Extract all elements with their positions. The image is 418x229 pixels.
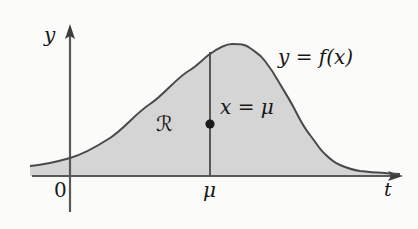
centroid-dot-marker: [205, 119, 214, 128]
mean-tick-label: μ: [203, 180, 216, 200]
mean-line-label: x = μ: [220, 97, 274, 117]
curve-equation-label: y = f(x): [278, 47, 353, 67]
t-axis-label: t: [384, 180, 392, 199]
region-label: ℛ: [156, 114, 173, 135]
origin-label: 0: [54, 180, 67, 200]
y-axis-label: y: [44, 25, 55, 45]
probability-density-figure: y t 0 μ ℛ x = μ y = f(x): [0, 0, 418, 229]
